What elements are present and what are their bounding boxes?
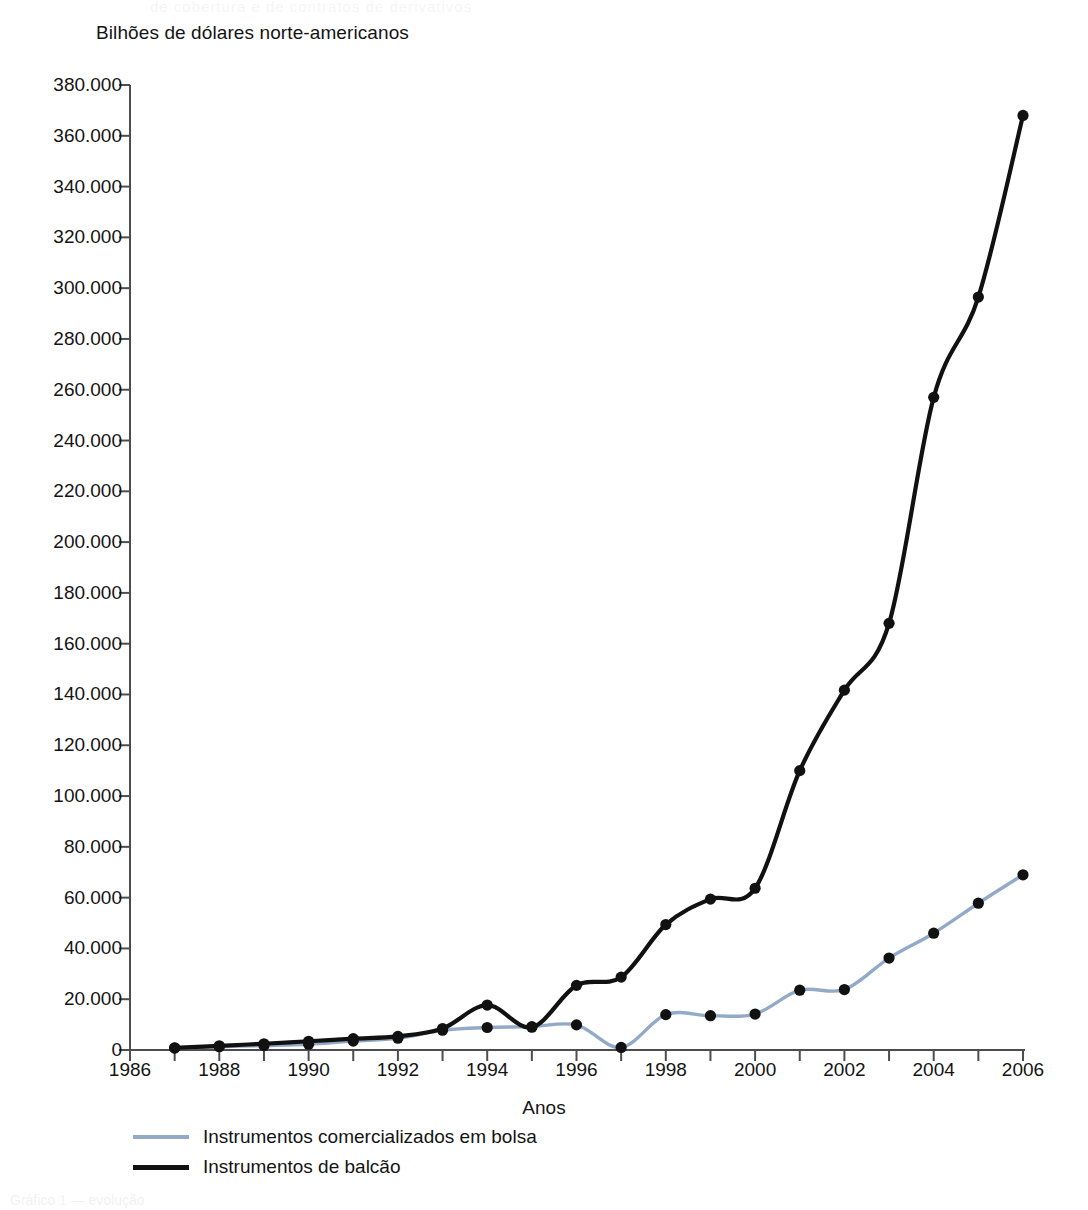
y-tick-label: 340.000: [22, 176, 122, 198]
data-point-marker: [482, 1022, 493, 1033]
data-point-marker: [928, 928, 939, 939]
chart-container: de cobertura e de contratos de derivativ…: [0, 0, 1088, 1210]
data-point-marker: [482, 999, 493, 1010]
data-point-marker: [214, 1040, 225, 1051]
x-tick-label: 1992: [377, 1059, 419, 1081]
y-tick-label: 80.000: [22, 836, 122, 858]
data-point-marker: [750, 1008, 761, 1019]
data-point-marker: [839, 984, 850, 995]
chart-legend: Instrumentos comercializados em bolsaIns…: [133, 1122, 833, 1182]
data-point-marker: [571, 980, 582, 991]
data-point-marker: [169, 1042, 180, 1053]
data-point-marker: [616, 972, 627, 983]
legend-color-swatch: [133, 1165, 189, 1170]
legend-item-label: Instrumentos de balcão: [203, 1156, 401, 1178]
data-point-marker: [1017, 110, 1028, 121]
y-tick-label: 100.000: [22, 785, 122, 807]
bleed-through-text-top: de cobertura e de contratos de derivativ…: [150, 0, 710, 14]
series-group: [169, 110, 1029, 1054]
data-point-marker: [303, 1036, 314, 1047]
data-point-marker: [973, 898, 984, 909]
y-tick-label: 240.000: [22, 430, 122, 452]
x-tick-label: 1994: [466, 1059, 508, 1081]
y-tick-label: 200.000: [22, 531, 122, 553]
x-axis-title: Anos: [0, 1097, 1088, 1119]
y-tick-label: 360.000: [22, 125, 122, 147]
data-point-marker: [571, 1019, 582, 1030]
y-axis-tick-labels: 380.000360.000340.000320.000300.000280.0…: [18, 0, 122, 1210]
data-point-marker: [616, 1042, 627, 1053]
x-tick-label: 2000: [734, 1059, 776, 1081]
y-tick-label: 180.000: [22, 582, 122, 604]
data-point-marker: [660, 1009, 671, 1020]
y-tick-label: 40.000: [22, 937, 122, 959]
x-tick-label: 2006: [1002, 1059, 1044, 1081]
legend-item[interactable]: Instrumentos comercializados em bolsa: [133, 1122, 833, 1152]
data-point-marker: [526, 1022, 537, 1033]
data-point-marker: [750, 883, 761, 894]
data-point-marker: [437, 1023, 448, 1034]
y-tick-label: 380.000: [22, 74, 122, 96]
x-tick-label: 1986: [109, 1059, 151, 1081]
y-tick-label: 140.000: [22, 683, 122, 705]
legend-item-label: Instrumentos comercializados em bolsa: [203, 1126, 537, 1148]
y-tick-label: 320.000: [22, 226, 122, 248]
data-point-marker: [839, 685, 850, 696]
y-tick-label: 60.000: [22, 887, 122, 909]
data-point-marker: [348, 1033, 359, 1044]
legend-item[interactable]: Instrumentos de balcão: [133, 1152, 833, 1182]
series-otc: [169, 110, 1029, 1054]
y-tick-label: 160.000: [22, 633, 122, 655]
x-tick-label: 2004: [913, 1059, 955, 1081]
data-point-marker: [258, 1038, 269, 1049]
y-tick-label: 260.000: [22, 379, 122, 401]
plot-area: [0, 0, 1088, 1210]
series-exchange-traded: [169, 869, 1029, 1054]
chart-title: Bilhões de dólares norte-americanos: [96, 22, 409, 44]
y-tick-label: 20.000: [22, 988, 122, 1010]
axes-group: [119, 85, 1025, 1061]
data-point-marker: [705, 1010, 716, 1021]
x-tick-label: 1998: [645, 1059, 687, 1081]
x-tick-label: 2002: [823, 1059, 865, 1081]
data-point-marker: [794, 765, 805, 776]
data-point-marker: [883, 618, 894, 629]
data-point-marker: [883, 952, 894, 963]
x-tick-label: 1996: [555, 1059, 597, 1081]
data-point-marker: [794, 985, 805, 996]
x-tick-label: 1988: [198, 1059, 240, 1081]
y-tick-label: 220.000: [22, 480, 122, 502]
y-tick-label: 300.000: [22, 277, 122, 299]
data-point-marker: [705, 894, 716, 905]
y-tick-label: 120.000: [22, 734, 122, 756]
y-tick-label: 0: [22, 1039, 122, 1061]
data-point-marker: [973, 291, 984, 302]
data-point-marker: [392, 1031, 403, 1042]
x-tick-label: 1990: [287, 1059, 329, 1081]
data-point-marker: [928, 392, 939, 403]
y-tick-label: 280.000: [22, 328, 122, 350]
bleed-through-text-bottom: Gráfico 1 — evolução: [10, 1192, 310, 1210]
legend-color-swatch: [133, 1135, 189, 1139]
data-point-marker: [1017, 869, 1028, 880]
data-point-marker: [660, 919, 671, 930]
